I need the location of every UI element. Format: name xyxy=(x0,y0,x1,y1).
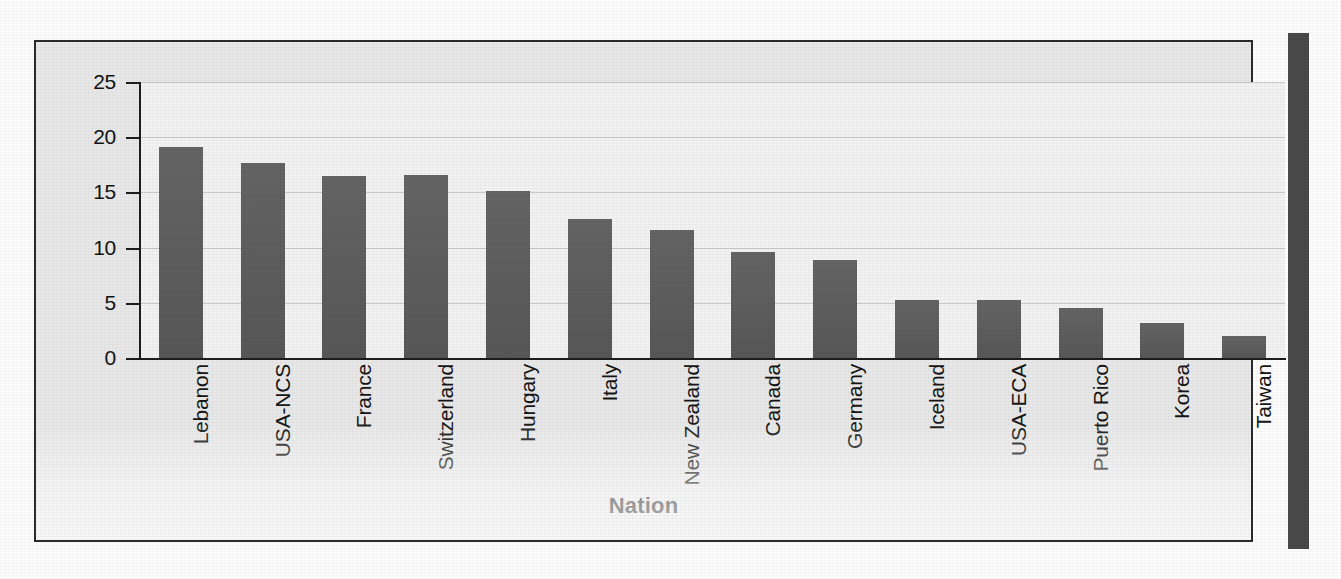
bar-germany xyxy=(813,260,857,358)
x-axis-title: Nation xyxy=(36,493,1251,519)
x-tick-label-switzerland: Switzerland xyxy=(434,364,458,470)
bar-iceland xyxy=(895,300,939,359)
y-tick-label-25: 25 xyxy=(40,70,116,94)
x-tick-label-korea: Korea xyxy=(1170,364,1194,419)
bar-korea xyxy=(1140,323,1184,358)
plot-area xyxy=(140,82,1285,358)
y-tick-5 xyxy=(126,303,139,305)
y-axis-line xyxy=(139,82,141,360)
figure-panel: Prevalence (%) 0510152025 LebanonUSA-NCS… xyxy=(34,40,1253,542)
y-tick-label-15: 15 xyxy=(40,180,116,204)
x-axis-tick-labels: LebanonUSA-NCSFranceSwitzerlandHungaryIt… xyxy=(140,360,1285,510)
x-tick-label-iceland: Iceland xyxy=(925,364,949,430)
x-tick-label-germany: Germany xyxy=(843,364,867,449)
x-tick-label-new-zealand: New Zealand xyxy=(680,364,704,486)
y-tick-25 xyxy=(126,82,139,84)
y-tick-0 xyxy=(126,358,139,360)
bar-usa-eca xyxy=(977,300,1021,359)
bar-france xyxy=(322,176,366,358)
x-tick-label-france: France xyxy=(352,364,376,428)
y-tick-10 xyxy=(126,248,139,250)
y-tick-20 xyxy=(126,137,139,139)
x-tick-label-usa-ncs: USA-NCS xyxy=(271,364,295,457)
figure-drop-shadow xyxy=(1288,33,1309,549)
bar-taiwan xyxy=(1222,336,1266,358)
bar-puerto-rico xyxy=(1059,308,1103,358)
figure-page: Prevalence (%) 0510152025 LebanonUSA-NCS… xyxy=(0,0,1341,579)
bar-switzerland xyxy=(404,175,448,358)
bar-lebanon xyxy=(159,147,203,358)
bar-canada xyxy=(731,252,775,358)
x-tick-label-italy: Italy xyxy=(598,364,622,402)
x-tick-label-hungary: Hungary xyxy=(516,364,540,442)
bars-layer xyxy=(140,82,1285,358)
x-tick-label-lebanon: Lebanon xyxy=(189,364,213,444)
bar-new-zealand xyxy=(650,230,694,358)
bar-italy xyxy=(568,219,612,358)
y-tick-label-0: 0 xyxy=(40,346,116,370)
x-tick-label-puerto-rico: Puerto Rico xyxy=(1089,364,1113,472)
bar-hungary xyxy=(486,191,530,358)
bar-usa-ncs xyxy=(241,163,285,358)
x-tick-label-canada: Canada xyxy=(761,364,785,436)
y-tick-label-10: 10 xyxy=(40,236,116,260)
y-tick-label-20: 20 xyxy=(40,125,116,149)
y-tick-15 xyxy=(126,192,139,194)
y-tick-label-5: 5 xyxy=(40,291,116,315)
x-tick-label-taiwan: Taiwan xyxy=(1252,364,1276,428)
x-tick-label-usa-eca: USA-ECA xyxy=(1007,364,1031,456)
